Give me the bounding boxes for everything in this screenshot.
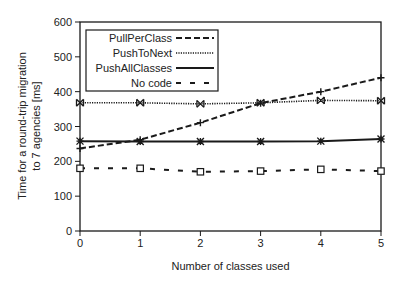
x-tick-label: 2 (197, 237, 203, 249)
y-tick-label: 500 (54, 51, 72, 63)
x-tick-label: 5 (378, 237, 384, 249)
y-tick-label: 0 (66, 225, 72, 237)
series-line (80, 168, 381, 171)
asterisk-marker-icon (197, 138, 204, 145)
y-axis-title: Time for a round-trip migration to 7 age… (16, 52, 42, 200)
asterisk-marker-icon (378, 136, 385, 143)
asterisk-marker-icon (77, 138, 84, 145)
plus-marker-icon (77, 145, 84, 152)
y-axis-title-line-2: to 7 agencies [ms] (30, 81, 42, 170)
series-line (80, 100, 381, 103)
legend-label: PushAllClasses (96, 62, 173, 74)
plus-marker-icon (378, 74, 385, 81)
y-tick-label: 400 (54, 86, 72, 98)
legend-label: No code (131, 77, 172, 89)
open-square-marker-icon (77, 165, 83, 171)
legend: PullPerClassPushToNextPushAllClassesNo c… (86, 30, 218, 91)
x-tick-label: 3 (258, 237, 264, 249)
y-tick-label: 200 (54, 155, 72, 167)
y-tick-label: 600 (54, 16, 72, 28)
x-tick-label: 0 (77, 237, 83, 249)
open-square-marker-icon (137, 165, 143, 171)
legend-label: PushToNext (113, 47, 172, 59)
plus-marker-icon (197, 119, 204, 126)
y-axis-title-line-1: Time for a round-trip migration (16, 52, 28, 200)
x-axis: 012345 (77, 231, 384, 249)
asterisk-marker-icon (137, 138, 144, 145)
open-square-marker-icon (318, 166, 324, 172)
asterisk-marker-icon (317, 138, 324, 145)
y-tick-label: 100 (54, 190, 72, 202)
line-chart: 0100200300400500600 012345 PullPerClassP… (0, 0, 398, 283)
open-square-marker-icon (257, 168, 263, 174)
legend-label: PullPerClass (109, 32, 172, 44)
open-square-marker-icon (378, 168, 384, 174)
y-tick-label: 300 (54, 121, 72, 133)
asterisk-marker-icon (257, 138, 264, 145)
open-square-marker-icon (197, 169, 203, 175)
series-no-code (77, 165, 384, 175)
series-pushtonext (77, 97, 385, 107)
plus-marker-icon (317, 88, 324, 95)
x-tick-label: 4 (318, 237, 324, 249)
series-line (80, 139, 381, 141)
y-axis: 0100200300400500600 (54, 16, 80, 237)
series-pushallclasses (77, 136, 385, 145)
x-tick-label: 1 (137, 237, 143, 249)
x-axis-title: Number of classes used (172, 260, 290, 272)
